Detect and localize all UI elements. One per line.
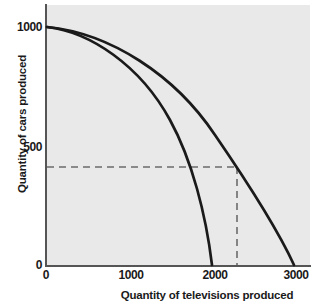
x-axis-title: Quantity of televisions produced xyxy=(100,289,314,301)
plot-area xyxy=(47,5,310,265)
y-tick-label-1000: 1000 xyxy=(2,20,42,34)
x-tick-label-2000: 2000 xyxy=(194,268,236,282)
x-tick-label-1000: 1000 xyxy=(110,268,152,282)
y-axis-title: Quantity of cars produced xyxy=(16,44,28,204)
ppf-chart-figure: 0 1000 2000 3000 1000 500 0 Quantity of … xyxy=(0,0,318,307)
y-axis-line xyxy=(45,4,47,267)
x-tick-label-3000: 3000 xyxy=(275,268,317,282)
y-tick-label-0: 0 xyxy=(2,258,42,272)
x-axis-line xyxy=(45,265,311,267)
